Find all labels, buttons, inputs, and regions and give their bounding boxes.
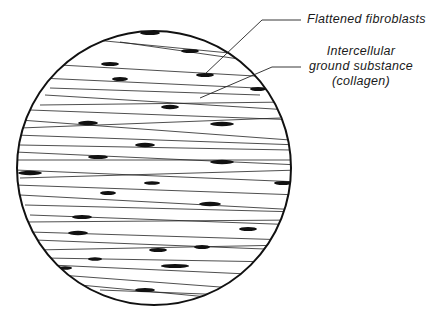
label-flattened-fibroblasts: Flattened fibroblasts (307, 12, 426, 27)
label-ground-substance: Intercellular ground substance (collagen… (300, 44, 422, 89)
label-ground-line-2: ground substance (300, 59, 422, 74)
field-of-view-circle (17, 31, 291, 305)
label-ground-line-1: Intercellular (300, 44, 422, 59)
label-ground-line-3: (collagen) (300, 74, 422, 89)
